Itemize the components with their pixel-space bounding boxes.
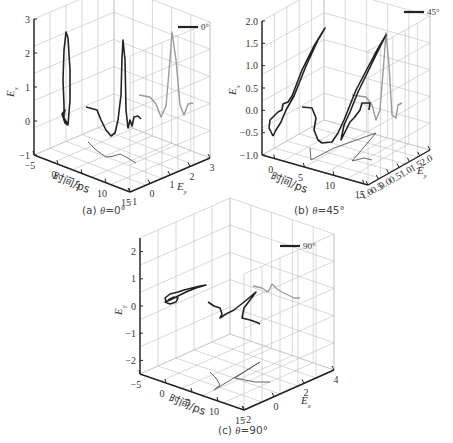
e-tick-label: 0: [150, 188, 155, 199]
grid-line: [34, 39, 114, 73]
z-tick-label: 2: [131, 246, 136, 257]
trajectory-curve-late: [302, 35, 386, 143]
grid-line: [244, 343, 334, 383]
e-tick: [302, 379, 304, 383]
grid-line: [34, 0, 114, 19]
e-tick-label: 4: [334, 374, 339, 385]
grid-line: [262, 13, 324, 48]
z-tick-label: 0.0: [246, 105, 259, 116]
e-tick: [148, 180, 150, 184]
z-tick-label: 2: [25, 48, 30, 59]
grid-line: [368, 96, 430, 131]
z-tick-label: −1: [125, 328, 136, 339]
time-tick-label: 10: [325, 180, 335, 191]
e-tick-label: 1: [170, 179, 175, 190]
e-axis: [244, 370, 334, 410]
grid-line: [202, 356, 292, 396]
z-tick-label: 0.5: [246, 83, 259, 94]
grid-line: [212, 342, 316, 378]
caption-c: (c) θ=90°: [218, 424, 268, 436]
panel-a: −10123−5051015−10123Ex时间/psEy0° (a) θ=0°: [0, 0, 230, 220]
e-tick-label: 2: [190, 171, 195, 182]
z-tick-label: 3: [25, 14, 30, 25]
z-tick-label: 2.0: [246, 16, 259, 27]
legend-label: 90°: [303, 241, 316, 251]
trajectory-curve-early: [165, 285, 206, 304]
grid-line: [140, 225, 230, 265]
time-tick-label: −5: [131, 379, 142, 390]
grid-line: [161, 341, 251, 381]
e-tick: [397, 164, 399, 168]
time-axis-label: 时间/ps: [51, 170, 92, 197]
projection-back-curve: [139, 32, 193, 117]
grid-line: [130, 76, 210, 110]
e-tick: [168, 171, 170, 175]
grid-line: [72, 136, 152, 170]
grid-line: [368, 16, 430, 51]
z-axis-label: Ex: [4, 86, 20, 98]
e-axis-label: Ey: [176, 180, 188, 196]
z-tick-label: 1.5: [246, 38, 259, 49]
grid-line: [230, 252, 334, 288]
e-tick-label: 0: [274, 401, 279, 412]
e-tick: [407, 158, 409, 162]
time-axis-label: 时间/ps: [269, 170, 310, 197]
z-tick-label: −1.0: [240, 150, 258, 161]
time-tick-label: 10: [97, 188, 107, 199]
z-tick-label: 0: [25, 116, 30, 127]
grid-line: [230, 225, 334, 261]
z-axis-label: Ex: [226, 84, 242, 96]
grid-line: [324, 0, 430, 16]
panel-c: −2−1012−5051015−2024Ey时间/psEx90° (c) θ=9…: [110, 222, 350, 443]
grid-line: [368, 43, 430, 78]
time-tick-label: 0: [160, 388, 165, 399]
grid-line: [324, 66, 430, 96]
z-tick-label: 0: [131, 301, 136, 312]
grid-line: [130, 104, 210, 138]
caption-a: (a) θ=0°: [82, 204, 126, 216]
grid-line: [140, 252, 230, 292]
grid-line: [230, 307, 334, 343]
z-tick-label: 1.0: [246, 60, 259, 71]
grid-line: [140, 280, 230, 320]
chart-a-plot: −10123−5051015−10123Ex时间/psEy0°: [0, 0, 230, 200]
z-tick-label: −1: [19, 150, 30, 161]
time-tick-label: 10: [209, 406, 219, 417]
panel-b: −1.0−0.50.00.51.01.52.0051015−1.0−0.50.0…: [226, 0, 453, 220]
grid-line: [140, 307, 230, 347]
trajectory-curve-late: [86, 40, 141, 136]
grid-line: [223, 363, 313, 403]
grid-line: [368, 123, 430, 158]
grid-line: [114, 0, 210, 22]
chart-b-plot: −1.0−0.50.00.51.01.52.0051015−1.0−0.50.0…: [226, 0, 453, 200]
caption-b: (b) θ=45°: [294, 204, 345, 216]
grid-line: [34, 12, 114, 46]
grid-line: [140, 334, 230, 374]
grid-line: [53, 128, 133, 162]
time-tick-label: −5: [25, 160, 36, 171]
z-tick-label: −0.5: [240, 127, 258, 138]
e-tick-label: 3: [210, 162, 215, 173]
grid-line: [244, 234, 334, 274]
grid-line: [244, 316, 334, 356]
e-axis-label: Ex: [300, 394, 312, 410]
grid-line: [34, 67, 114, 101]
legend-label: 45°: [427, 7, 440, 17]
grid-line: [230, 280, 334, 316]
z-tick-label: 1: [131, 273, 136, 284]
grid-line: [34, 121, 114, 155]
chart-c-plot: −2−1012−5051015−2024Ey时间/psEx90°: [110, 222, 350, 422]
e-tick: [272, 393, 274, 397]
z-axis-label: Ey: [112, 304, 128, 316]
grid-line: [230, 334, 334, 370]
grid-line: [368, 70, 430, 105]
e-tick-label: −1: [127, 196, 138, 207]
z-tick-label: −2: [125, 355, 136, 366]
e-tick: [418, 152, 420, 156]
grid-line: [324, 13, 430, 43]
z-tick-label: 1: [25, 82, 30, 93]
legend-label: 0°: [201, 22, 210, 32]
